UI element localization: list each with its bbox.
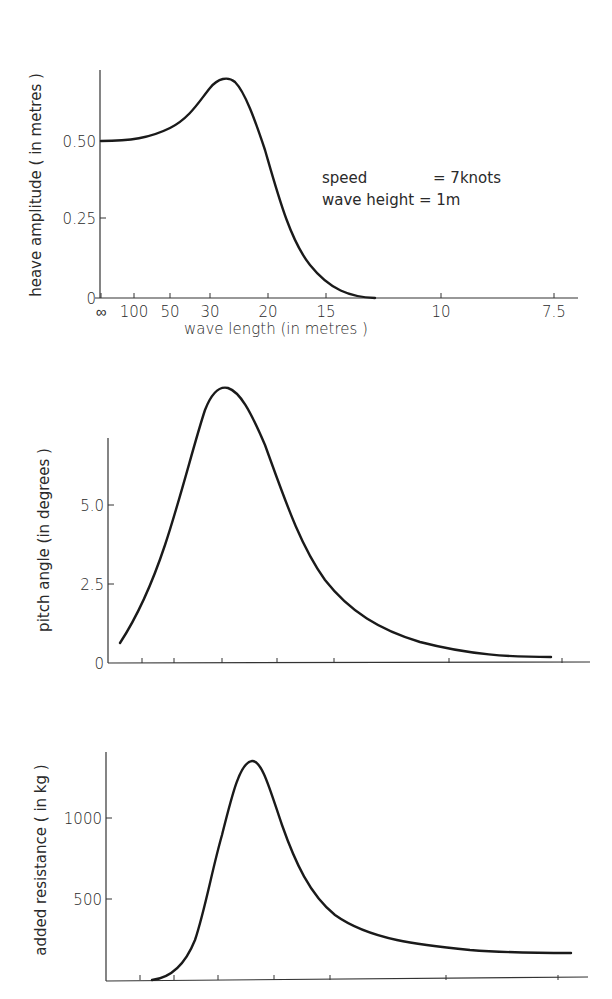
pitch-chart: 02.55.0 pitch angle (in degrees ) xyxy=(35,388,590,673)
pitch-x-axis xyxy=(108,662,590,663)
resistance-y-ticks: 5001000 xyxy=(64,810,112,909)
y-tick-label: 0.50 xyxy=(63,133,96,151)
y-tick-label: 0 xyxy=(94,655,104,673)
x-tick-label: 7.5 xyxy=(542,303,566,321)
x-tick-label: 50 xyxy=(160,303,179,321)
x-tick-label: ∞ xyxy=(96,303,107,321)
x-tick-label: 20 xyxy=(258,303,277,321)
heave-y-label: heave amplitude ( in metres ) xyxy=(27,73,45,297)
pitch-y-ticks: 02.55.0 xyxy=(80,497,114,673)
heave-curve xyxy=(101,79,375,298)
x-tick-label: 30 xyxy=(200,303,219,321)
heave-x-label: wave length (in metres ) xyxy=(184,320,368,338)
heave-chart: 00.250.50 ∞10050302015107.5 heave amplit… xyxy=(27,70,578,338)
y-tick-label: 5.0 xyxy=(80,497,104,515)
resistance-chart: 5001000 added resistance ( in kg ) xyxy=(32,752,588,981)
resistance-curve xyxy=(152,761,571,980)
annotation-wave-height: wave height = 1m xyxy=(322,191,460,209)
resistance-y-label: added resistance ( in kg ) xyxy=(32,764,50,955)
figure: 00.250.50 ∞10050302015107.5 heave amplit… xyxy=(0,0,612,999)
resistance-x-axis xyxy=(106,977,588,981)
x-tick-label: 100 xyxy=(120,303,149,321)
x-tick-label: 10 xyxy=(431,303,450,321)
pitch-y-label: pitch angle (in degrees ) xyxy=(35,448,53,632)
y-tick-label: 500 xyxy=(73,891,102,909)
y-tick-label: 0 xyxy=(86,290,96,308)
pitch-curve xyxy=(120,388,551,657)
annotation-speed-label: speed xyxy=(322,169,367,187)
annotation-speed-value: = 7knots xyxy=(433,169,501,187)
y-tick-label: 1000 xyxy=(64,810,102,828)
y-tick-label: 0.25 xyxy=(63,210,96,228)
heave-x-ticks: ∞10050302015107.5 xyxy=(96,293,566,321)
x-tick-label: 15 xyxy=(316,303,335,321)
y-tick-label: 2.5 xyxy=(80,576,104,594)
